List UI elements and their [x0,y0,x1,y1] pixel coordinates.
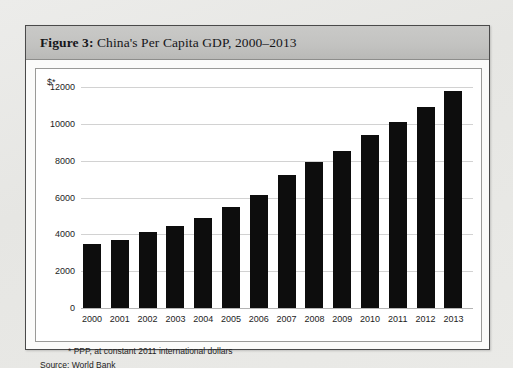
bar-2002 [139,232,157,308]
bar-2000 [83,244,101,308]
bar-2010 [361,135,379,308]
bar-2006 [250,195,268,308]
y-axis-tick-label: 12000 [50,82,75,92]
bar-2004 [194,218,212,308]
bar-2011 [389,122,407,308]
bar-2012 [417,107,435,308]
x-axis-tick-label: 2013 [436,314,470,324]
figure-title-text: China's Per Capita GDP, 2000–2013 [94,35,297,50]
y-axis-tick-label: 6000 [55,193,75,203]
bar-2003 [166,226,184,308]
bar-2007 [278,175,296,308]
bar-2009 [333,151,351,308]
footnote-text: * PPP, at constant 2011 international do… [68,346,233,356]
gridline [81,124,473,125]
y-axis-tick-label: 8000 [55,156,75,166]
chart-area: $* 0200040006000800010000120002000200120… [35,68,482,342]
y-axis-tick-label: 0 [70,303,75,313]
figure-caption-band: Figure 3: China's Per Capita GDP, 2000–2… [26,26,489,60]
figure-frame: Figure 3: China's Per Capita GDP, 2000–2… [25,25,490,350]
bar-2013 [444,91,462,308]
bar-2005 [222,207,240,308]
y-axis-tick-label: 2000 [55,266,75,276]
y-axis-tick-label: 4000 [55,229,75,239]
gridline [81,308,473,309]
gridline [81,161,473,162]
figure-title: Figure 3: China's Per Capita GDP, 2000–2… [26,35,297,51]
figure-number-label: Figure 3: [40,35,94,50]
source-text: Source: World Bank [40,360,115,368]
gridline [81,87,473,88]
y-axis-tick-label: 10000 [50,119,75,129]
plot-region: 0200040006000800010000120002000200120022… [81,87,473,308]
bar-2008 [305,162,323,308]
bar-2001 [111,240,129,308]
